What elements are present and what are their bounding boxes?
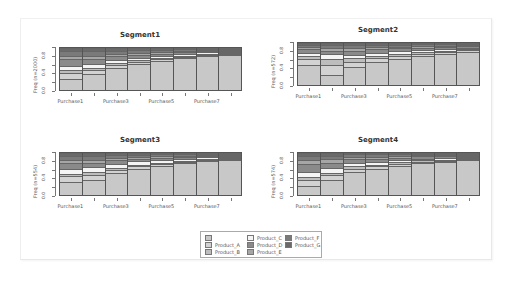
legend-label: Product_E xyxy=(257,249,282,255)
bar-segment xyxy=(344,67,366,85)
x-tick xyxy=(309,198,310,201)
y-axis xyxy=(55,47,56,91)
bar-purchase4 xyxy=(365,42,389,86)
bar-purchase5 xyxy=(150,47,174,91)
bar-segment xyxy=(412,56,434,85)
x-tick xyxy=(140,93,141,96)
y-tick xyxy=(290,152,293,153)
bar-purchase3 xyxy=(343,42,367,86)
bars-area xyxy=(298,152,480,196)
legend-label: Product_F xyxy=(295,235,319,241)
y-tick xyxy=(52,196,55,197)
x-tick-label: Purchase1 xyxy=(57,98,83,104)
bar-segment xyxy=(197,56,219,90)
x-tick xyxy=(231,93,232,96)
bar-purchase6 xyxy=(173,47,197,91)
x-tick-label: Purchase7 xyxy=(194,203,220,209)
y-tick xyxy=(52,73,55,74)
legend-item xyxy=(205,235,215,241)
bar-purchase5 xyxy=(388,42,412,86)
bar-segment xyxy=(83,74,105,90)
panel-title: Segment3 xyxy=(30,136,250,144)
x-tick xyxy=(162,93,163,96)
y-tick xyxy=(290,86,293,87)
bar-segment xyxy=(366,62,388,85)
y-tick xyxy=(290,51,293,52)
x-tick xyxy=(71,93,72,96)
panel-title: Segment1 xyxy=(30,31,250,39)
bar-segment xyxy=(298,186,320,195)
legend-label: Product_C xyxy=(257,235,282,241)
y-tick-label: 0.4 xyxy=(41,174,46,181)
bar-purchase6 xyxy=(411,42,435,86)
bar-segment xyxy=(457,52,479,85)
bar-purchase7 xyxy=(196,152,220,196)
bar-segment xyxy=(435,54,457,85)
legend: Product_AProduct_BProduct_CProduct_DProd… xyxy=(200,231,322,258)
y-tick xyxy=(52,56,55,57)
y-tick-label: 0.8 xyxy=(279,47,284,54)
bar-segment xyxy=(106,173,128,195)
bar-purchase4 xyxy=(127,152,151,196)
bar-segment xyxy=(151,166,173,195)
bar-segment xyxy=(128,169,150,195)
bar-purchase1 xyxy=(297,42,321,86)
y-tick xyxy=(290,60,293,61)
y-tick-label: 0.4 xyxy=(41,69,46,76)
y-tick-label: 0.8 xyxy=(41,157,46,164)
bar-segment xyxy=(60,79,82,90)
y-tick xyxy=(52,47,55,48)
x-tick-label: Purchase3 xyxy=(341,203,367,209)
x-tick-label: Purchase7 xyxy=(432,203,458,209)
bar-segment xyxy=(128,64,150,90)
bar-purchase2 xyxy=(320,42,344,86)
x-tick xyxy=(117,198,118,201)
x-tick xyxy=(208,198,209,201)
x-tick xyxy=(231,198,232,201)
bar-segment xyxy=(106,68,128,90)
y-axis-label: Freq (n=574) xyxy=(270,165,276,198)
bar-segment xyxy=(151,61,173,90)
panel-segment1: Segment1Freq (n=2000)0.00.40.8Purchase1P… xyxy=(30,25,250,120)
y-axis-label: Freq (n=554) xyxy=(32,165,38,198)
x-tick-label: Purchase3 xyxy=(103,98,129,104)
bar-purchase5 xyxy=(150,152,174,196)
y-tick xyxy=(52,82,55,83)
bar-purchase2 xyxy=(320,152,344,196)
legend-swatch xyxy=(247,249,254,255)
x-tick-label: Purchase5 xyxy=(148,98,174,104)
bar-purchase4 xyxy=(127,47,151,91)
bar-segment xyxy=(344,172,366,195)
x-tick-label: Purchase3 xyxy=(103,203,129,209)
legend-item: Product_D xyxy=(247,242,282,248)
x-tick xyxy=(117,93,118,96)
legend-swatch xyxy=(205,242,212,248)
legend-item: Product_A xyxy=(205,242,240,248)
bar-purchase3 xyxy=(343,152,367,196)
bar-purchase1 xyxy=(297,152,321,196)
bar-segment xyxy=(389,166,411,195)
bar-segment xyxy=(298,65,320,85)
y-tick xyxy=(290,77,293,78)
legend-item: Product_F xyxy=(285,235,319,241)
bar-segment xyxy=(412,163,434,195)
y-tick-label: 0.4 xyxy=(279,174,284,181)
y-tick-label: 0.8 xyxy=(279,157,284,164)
x-tick xyxy=(208,93,209,96)
y-tick xyxy=(290,170,293,171)
y-tick xyxy=(52,91,55,92)
bar-purchase7 xyxy=(434,152,458,196)
x-tick xyxy=(378,198,379,201)
legend-swatch xyxy=(247,235,254,241)
x-tick xyxy=(446,88,447,91)
y-axis xyxy=(55,152,56,196)
bar-purchase6 xyxy=(173,152,197,196)
legend-label: Product_B xyxy=(215,249,240,255)
bar-purchase2 xyxy=(82,47,106,91)
bar-segment xyxy=(389,59,411,85)
bars-area xyxy=(60,152,242,196)
bar-purchase8 xyxy=(456,42,480,86)
panel-segment3: Segment3Freq (n=554)0.00.40.8Purchase1Pu… xyxy=(30,130,250,225)
panel-segment4: Segment4Freq (n=574)0.00.40.8Purchase1Pu… xyxy=(268,130,488,225)
bar-purchase1 xyxy=(59,152,83,196)
